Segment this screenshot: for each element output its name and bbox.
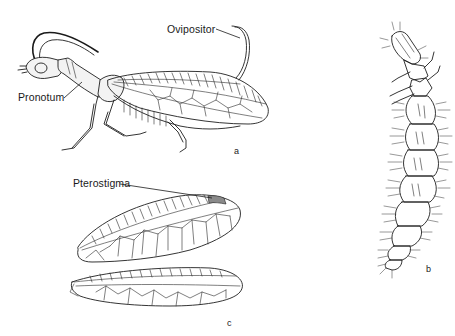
pterostigma-label: Pterostigma bbox=[73, 178, 130, 189]
wings-illustration bbox=[70, 195, 242, 306]
larva-illustration bbox=[378, 22, 452, 278]
pronotum-leader bbox=[64, 82, 82, 98]
panel-letter-b: b bbox=[426, 265, 431, 274]
figure-drawing bbox=[0, 0, 455, 336]
panel-letter-c: c bbox=[227, 319, 232, 328]
pronotum-label: Pronotum bbox=[18, 92, 64, 103]
pterostigma-leader bbox=[120, 184, 212, 198]
ovipositor-leader bbox=[216, 29, 240, 38]
adult-illustration bbox=[18, 26, 268, 152]
panel-letter-a: a bbox=[234, 147, 239, 156]
snakefly-figure: Ovipositor Pronotum Pterostigma a b c bbox=[0, 0, 455, 336]
ovipositor-label: Ovipositor bbox=[167, 24, 215, 35]
